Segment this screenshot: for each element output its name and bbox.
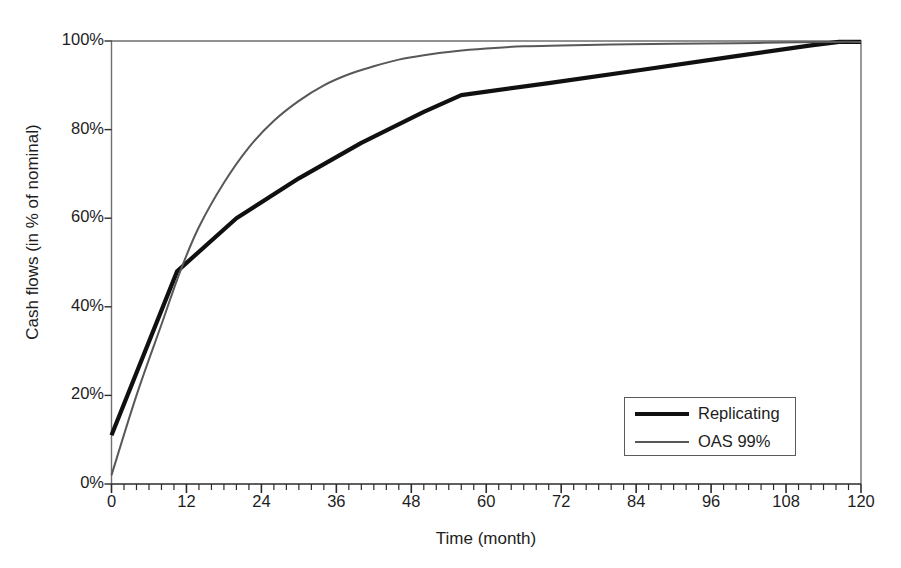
chart-figure: Cash flows (in % of nominal) Time (month… [0, 0, 901, 568]
legend-line-swatch-replicating [635, 408, 689, 420]
legend-line-swatch-oas [635, 436, 689, 448]
series-line-replicating [112, 42, 862, 435]
plot-area [0, 0, 901, 568]
legend-label-replicating: Replicating [698, 404, 780, 423]
legend-label-oas: OAS 99% [698, 432, 770, 451]
chart-legend: Replicating OAS 99% [624, 397, 796, 456]
legend-entry-replicating: Replicating [625, 399, 795, 428]
legend-entry-oas: OAS 99% [625, 427, 795, 456]
